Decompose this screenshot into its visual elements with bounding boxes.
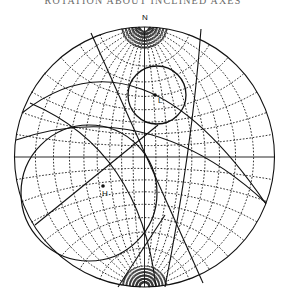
point-l-marker [153,93,157,97]
point-h-label: H [102,189,108,198]
point-h-marker [101,184,105,188]
north-label: N [142,13,148,22]
construction-lines [16,29,266,287]
stereonet: N L H [0,0,286,308]
small-circle-around-h [21,125,157,261]
small-circle-around-l [128,66,186,124]
great-circle-right [165,29,201,287]
point-l-label: L [158,96,163,105]
great-circle-upper [22,82,266,204]
